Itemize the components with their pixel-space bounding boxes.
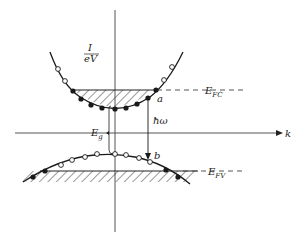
band-diagram: k I eV EFC a EFV bbox=[0, 0, 301, 241]
svg-text:eV: eV bbox=[84, 53, 99, 64]
k-axis-label: k bbox=[285, 128, 291, 139]
k-axis bbox=[15, 130, 283, 136]
eg-label: Eg bbox=[90, 127, 103, 141]
valence-band-filled-region bbox=[22, 171, 198, 182]
point-a-label: a bbox=[157, 93, 163, 104]
conduction-band-filled-region bbox=[73, 90, 157, 108]
optical-transition-arrow bbox=[145, 98, 151, 160]
band-gap-marker bbox=[109, 106, 113, 154]
point-b-label: b bbox=[154, 150, 160, 161]
efc-label: EFC bbox=[204, 85, 223, 99]
photon-energy-label: ħω bbox=[153, 115, 168, 126]
fraction-label: I eV bbox=[84, 42, 99, 64]
efv-label: EFV bbox=[207, 166, 226, 180]
svg-text:I: I bbox=[87, 42, 93, 53]
